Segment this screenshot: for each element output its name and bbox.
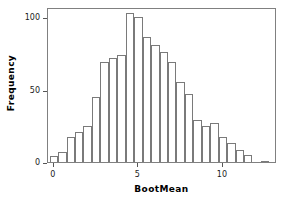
histogram-bar (227, 143, 235, 162)
x-tick-mark (53, 163, 54, 167)
histogram-bar (202, 126, 210, 162)
histogram-bar (92, 97, 100, 162)
y-tick-label: 100 (25, 14, 40, 22)
x-axis-label: BootMean (47, 184, 276, 194)
histogram-figure: 050100 0510 BootMean Frequency (0, 0, 290, 202)
x-tick-label: 0 (38, 171, 68, 179)
histogram-bar (109, 58, 117, 162)
histogram-bar (117, 55, 125, 162)
plot-area (47, 8, 276, 163)
histogram-bar (244, 155, 252, 162)
histogram-bar (75, 132, 83, 162)
histogram-bar (193, 120, 201, 162)
histogram-bar (134, 17, 142, 162)
y-tick-label: 50 (30, 87, 40, 95)
histogram-bar (261, 161, 269, 162)
histogram-bar (210, 123, 218, 162)
histogram-bar (176, 82, 184, 162)
histogram-bar (236, 150, 244, 162)
histogram-bar (100, 62, 108, 162)
histogram-bar (67, 137, 75, 162)
histogram-bar (58, 152, 66, 162)
histogram-bar (50, 156, 58, 162)
histogram-bar (219, 137, 227, 162)
y-tick-mark (43, 18, 47, 19)
histogram-bar (160, 52, 168, 162)
y-tick-mark (43, 163, 47, 164)
histogram-bar (168, 62, 176, 162)
histogram-bar (83, 126, 91, 162)
histogram-bar (151, 45, 159, 162)
y-tick-label: 0 (35, 159, 40, 167)
histogram-bar (126, 13, 134, 162)
x-tick-label: 10 (207, 171, 237, 179)
histogram-bar (185, 94, 193, 162)
y-tick-mark (43, 91, 47, 92)
x-tick-mark (222, 163, 223, 167)
x-tick-mark (137, 163, 138, 167)
y-axis-label: Frequency (6, 43, 16, 123)
histogram-bar (143, 37, 151, 162)
x-tick-label: 5 (122, 171, 152, 179)
bars-container (48, 9, 275, 162)
